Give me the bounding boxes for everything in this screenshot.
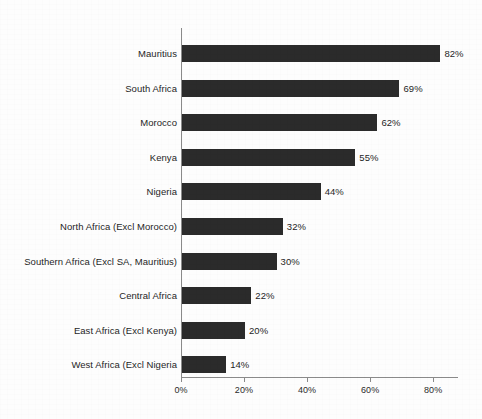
category-label: Nigeria	[147, 183, 177, 200]
bar[interactable]	[182, 80, 399, 97]
bar[interactable]	[182, 114, 377, 131]
axis-tick	[244, 378, 245, 382]
category-label: Kenya	[150, 149, 177, 166]
category-label: Southern Africa (Excl SA, Mauritius)	[24, 253, 177, 270]
category-label: Mauritius	[138, 45, 177, 62]
bar[interactable]	[182, 322, 245, 339]
axis-tick-label: 80%	[424, 385, 442, 395]
bar-row: Nigeria44%	[0, 183, 482, 200]
bar-row: North Africa (Excl Morocco)32%	[0, 218, 482, 235]
bar[interactable]	[182, 218, 283, 235]
bar-value-label: 32%	[287, 218, 306, 235]
bar-row: West Africa (Excl Nigeria14%	[0, 356, 482, 373]
axis-tick	[370, 378, 371, 382]
bar[interactable]	[182, 287, 251, 304]
bar-row: Central Africa22%	[0, 287, 482, 304]
bar-row: Morocco62%	[0, 114, 482, 131]
category-label: North Africa (Excl Morocco)	[60, 218, 177, 235]
bar-value-label: 55%	[359, 149, 378, 166]
bar-value-label: 14%	[230, 356, 249, 373]
category-label: Central Africa	[119, 287, 177, 304]
bar-row: Mauritius82%	[0, 45, 482, 62]
category-label: Morocco	[140, 114, 177, 131]
bar-row: South Africa69%	[0, 80, 482, 97]
axis-tick-label: 20%	[235, 385, 253, 395]
bar[interactable]	[182, 45, 440, 62]
category-label: South Africa	[125, 80, 177, 97]
bar-value-label: 22%	[255, 287, 274, 304]
bar[interactable]	[182, 183, 321, 200]
category-label: West Africa (Excl Nigeria	[71, 356, 177, 373]
bar-value-label: 44%	[325, 183, 344, 200]
axis-tick-label: 40%	[298, 385, 316, 395]
bar[interactable]	[182, 356, 226, 373]
bar-row: Kenya55%	[0, 149, 482, 166]
category-label: East Africa (Excl Kenya)	[74, 322, 177, 339]
bar-row: Southern Africa (Excl SA, Mauritius)30%	[0, 253, 482, 270]
bar[interactable]	[182, 149, 355, 166]
bar[interactable]	[182, 253, 277, 270]
bar-value-label: 82%	[444, 45, 463, 62]
axis-tick	[433, 378, 434, 382]
axis-tick	[307, 378, 308, 382]
axis-tick-label: 0%	[174, 385, 187, 395]
bar-value-label: 69%	[403, 80, 422, 97]
value-axis-line	[181, 377, 458, 378]
bar-chart: 0%20%40%60%80% Mauritius82%South Africa6…	[0, 0, 482, 419]
bar-row: East Africa (Excl Kenya)20%	[0, 322, 482, 339]
bar-value-label: 30%	[281, 253, 300, 270]
axis-tick-label: 60%	[361, 385, 379, 395]
axis-tick	[181, 378, 182, 382]
bar-value-label: 62%	[381, 114, 400, 131]
bar-value-label: 20%	[249, 322, 268, 339]
